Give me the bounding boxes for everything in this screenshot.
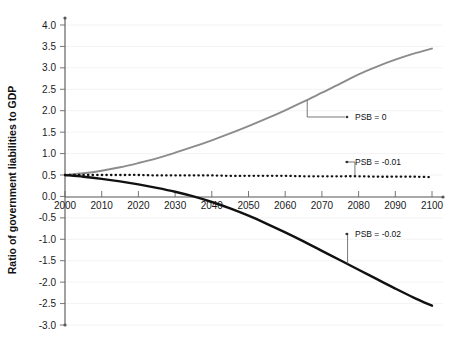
x-axis-tick-label: 2090	[384, 200, 407, 211]
y-axis-tick-label: 1.0	[42, 148, 56, 159]
annotation-label: PSB = 0	[355, 112, 387, 122]
annotation-marker-dot	[346, 233, 349, 236]
chart-container: -3.0-2.5-2.0-1.5-1.0-0.50.00.51.01.52.02…	[0, 0, 455, 344]
ratio-of-government-liabilities-line-chart: -3.0-2.5-2.0-1.5-1.0-0.50.00.51.01.52.02…	[0, 0, 455, 344]
x-axis-tick-label: 2080	[347, 200, 370, 211]
x-axis-tick-label: 2010	[91, 200, 114, 211]
y-axis-tick-label: -1.5	[39, 255, 57, 266]
y-axis-tick-label: 4.0	[42, 20, 56, 31]
y-axis-tick-label: 2.0	[42, 105, 56, 116]
x-axis-tick-label: 2020	[127, 200, 150, 211]
y-axis-tick-label: 1.5	[42, 127, 56, 138]
y-axis-tick-label: -0.5	[39, 212, 57, 223]
y-axis-tick-label: 0.5	[42, 170, 56, 181]
x-axis-tick-label: 2000	[54, 200, 77, 211]
y-axis-tick-label: 2.5	[42, 84, 56, 95]
y-axis-tick-label: -1.0	[39, 234, 57, 245]
x-axis-tick-label: 2100	[421, 200, 444, 211]
y-axis-tick-label: 3.0	[42, 62, 56, 73]
annotation-label: PSB = -0.01	[355, 157, 401, 167]
x-axis-tick-label: 2070	[311, 200, 334, 211]
y-axis-title: Ratio of government liabilities to GDP	[6, 86, 18, 274]
y-axis-tick-label: 3.5	[42, 41, 56, 52]
x-axis-tick-label: 2060	[274, 200, 297, 211]
y-axis-tick-label: -2.5	[39, 298, 57, 309]
y-axis-tick-label: -2.0	[39, 277, 57, 288]
annotation-marker-dot	[346, 161, 349, 164]
x-axis-right-cap	[441, 195, 444, 198]
x-axis-tick-label: 2050	[237, 200, 260, 211]
annotation-label: PSB = -0.02	[355, 229, 401, 239]
x-axis-tick-label: 2030	[164, 200, 187, 211]
y-axis-top-cap	[63, 16, 66, 19]
y-axis-tick-label: -3.0	[39, 320, 57, 331]
annotation-marker-dot	[346, 116, 349, 119]
chart-background	[0, 0, 455, 344]
